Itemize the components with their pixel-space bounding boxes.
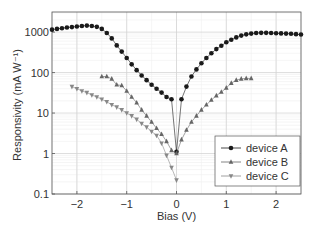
x-tick-label: 0	[173, 198, 179, 210]
y-tick-label: 10	[37, 107, 49, 119]
x-tick-label: −2	[71, 198, 84, 210]
x-axis-label: Bias (V)	[157, 210, 196, 222]
legend-label: device A	[246, 142, 288, 154]
responsivity-chart: −2−10120.11101001000Bias (V)Responsivity…	[0, 0, 314, 229]
y-tick-label: 1000	[25, 26, 49, 38]
x-tick-label: 2	[273, 198, 279, 210]
y-tick-label: 100	[31, 67, 49, 79]
x-tick-label: −1	[120, 198, 133, 210]
legend: device Adevice Bdevice C	[215, 136, 300, 186]
legend-label: device B	[246, 156, 288, 168]
legend-label: device C	[246, 170, 289, 182]
x-tick-label: 1	[223, 198, 229, 210]
y-tick-label: 0.1	[34, 188, 49, 200]
y-tick-label: 1	[43, 148, 49, 160]
y-axis-label: Responsivity (mA W⁻¹)	[11, 49, 23, 161]
